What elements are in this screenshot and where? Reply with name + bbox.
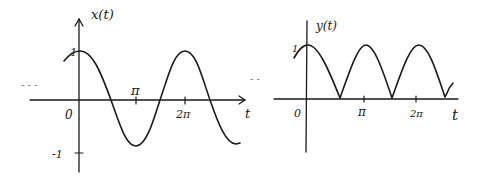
right-y-tick-1-label: 1 <box>292 43 298 54</box>
left-2pi-label: 2π <box>175 108 191 121</box>
left-x-label: t <box>245 106 251 121</box>
right-y-label: y(t) <box>315 19 337 33</box>
right-plot: y(t) 1 0 π 2π t - - <box>250 19 459 152</box>
left-ellipsis: - - - <box>21 79 38 90</box>
right-y-axis <box>306 21 307 152</box>
left-plot: x(t) 1 -1 0 π 2π t - - - <box>21 7 251 172</box>
left-origin-label: 0 <box>65 108 73 122</box>
right-x-label: t <box>452 106 459 124</box>
right-ellipsis: - - <box>250 73 261 84</box>
right-origin-label: 0 <box>294 107 301 120</box>
left-y-tick-1-label: 1 <box>70 46 77 59</box>
signal-diagram: x(t) 1 -1 0 π 2π t - - - y(t) 1 0 π 2π t… <box>0 0 477 179</box>
right-pi-label: π <box>357 105 367 119</box>
right-2pi-label: 2π <box>409 108 423 119</box>
left-y-label: x(t) <box>91 7 114 22</box>
right-rectified-curve <box>294 45 453 98</box>
left-cosine-curve <box>64 51 240 146</box>
left-y-tick-minus1-label: -1 <box>52 148 63 161</box>
left-pi-label: π <box>130 83 140 98</box>
